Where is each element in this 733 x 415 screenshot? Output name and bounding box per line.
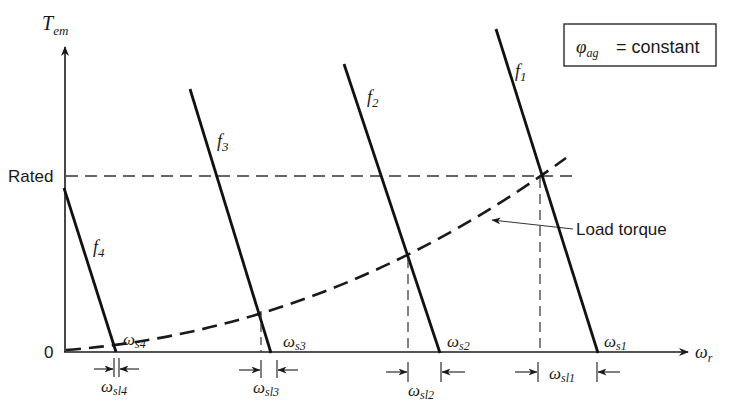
load-torque-label: Load torque [576, 220, 667, 239]
y-axis-label: Tem [42, 12, 68, 38]
x-axis-label: ωr [695, 342, 713, 365]
f3-line [190, 89, 271, 353]
ws4-label: ωs4 [123, 330, 146, 351]
axes [64, 47, 688, 352]
ws1-label: ωs1 [604, 332, 627, 353]
f3-label: f3 [217, 131, 229, 154]
load-torque-leader [492, 220, 573, 229]
origin-label: 0 [44, 343, 53, 362]
load-torque-curve [66, 158, 566, 350]
ws2-label: ωs2 [447, 332, 470, 353]
slip-dimension-4 [94, 358, 139, 377]
torque-speed-diagram: Tem ωr 0 Rated φag = constant Load torqu… [0, 0, 733, 415]
rated-tick-label: Rated [8, 167, 53, 186]
wsl4-label: ωsl4 [101, 377, 127, 398]
ws3-label: ωs3 [283, 332, 306, 353]
f1-line [496, 29, 598, 353]
svg-text:= constant: = constant [616, 37, 700, 57]
f4-line [64, 188, 116, 352]
wsl1-label: ωsl1 [549, 364, 575, 385]
wsl3-label: ωsl3 [253, 378, 279, 399]
wsl2-label: ωsl2 [408, 381, 434, 402]
f2-line [344, 64, 440, 353]
f2-label: f2 [367, 87, 379, 110]
f1-label: f1 [515, 61, 527, 84]
slip-dimension-2 [386, 362, 465, 382]
f4-label: f4 [93, 237, 105, 260]
slip-dimension-3 [239, 360, 298, 378]
constant-flux-box: φag = constant [564, 24, 716, 66]
